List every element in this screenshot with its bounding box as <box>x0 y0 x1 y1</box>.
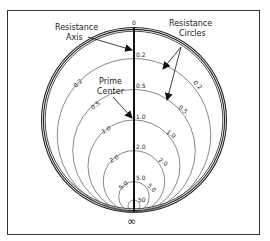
svg-text:Center: Center <box>97 87 125 96</box>
svg-text:2.0: 2.0 <box>136 143 146 150</box>
svg-text:0: 0 <box>132 19 136 26</box>
svg-text:5.0: 5.0 <box>136 174 146 181</box>
svg-text:1.0: 1.0 <box>136 113 146 120</box>
svg-text:0.2: 0.2 <box>192 79 204 91</box>
svg-text:Prime: Prime <box>99 77 122 86</box>
svg-text:50: 50 <box>138 196 146 203</box>
smith-chart: 0 0.2 0.5 1.0 2.0 5.0 50 0.2 0.5 1.0 2.0… <box>0 0 270 241</box>
svg-text:Circles: Circles <box>179 29 206 38</box>
callout-resistance-circles: Resistance Circles <box>163 19 212 100</box>
svg-text:0.5: 0.5 <box>177 103 189 115</box>
infinity-label: ∞ <box>127 215 136 228</box>
svg-text:0.5: 0.5 <box>89 99 101 111</box>
svg-text:2.0: 2.0 <box>108 153 120 164</box>
svg-text:0.5: 0.5 <box>136 82 146 89</box>
svg-text:Resistance: Resistance <box>55 23 98 32</box>
callout-prime-center: Prime Center <box>97 77 132 118</box>
svg-text:Axis: Axis <box>66 33 83 42</box>
svg-text:5.0: 5.0 <box>146 182 158 194</box>
svg-text:0.2: 0.2 <box>136 51 146 58</box>
svg-text:1.0: 1.0 <box>165 128 177 139</box>
svg-text:Resistance: Resistance <box>169 19 212 28</box>
svg-text:1.0: 1.0 <box>100 124 112 135</box>
right-arc-labels: 0.2 0.5 1.0 2.0 5.0 <box>146 79 204 194</box>
svg-text:2.0: 2.0 <box>157 156 169 167</box>
svg-text:5.0: 5.0 <box>117 179 129 191</box>
